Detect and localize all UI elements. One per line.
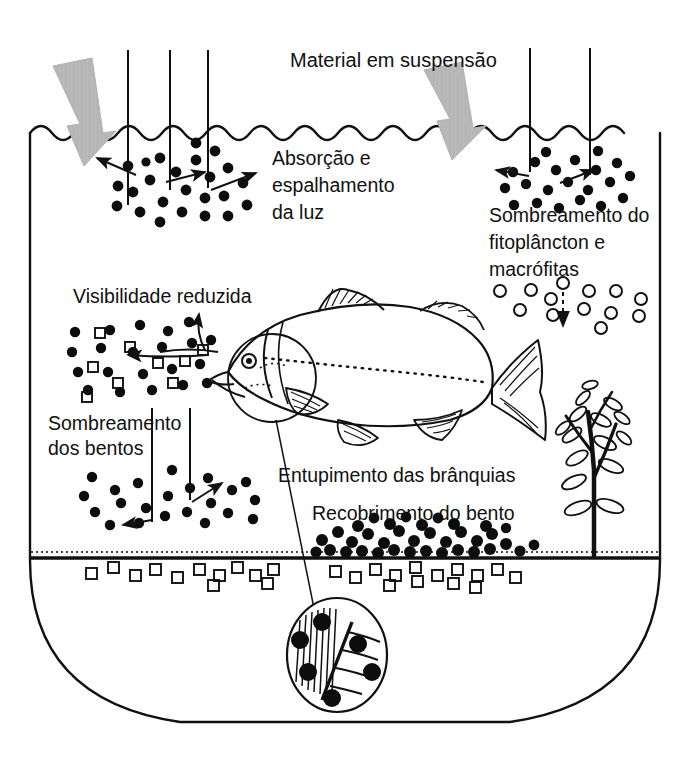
label-shading-phyto-line1: Sombreamento do — [489, 204, 650, 226]
label-gill-clogging: Entupimento das brânquias — [278, 464, 516, 486]
particle-cloud-benthos — [79, 465, 260, 530]
suspended-material-inflow-arrow-right — [424, 62, 486, 160]
label-absorption-scattering: Absorção e espalhamento da luz — [272, 147, 395, 223]
label-shading-benthos-line2: dos bentos — [48, 437, 144, 459]
aquatic-suspended-material-diagram: Material em suspensão Absorção e espalha… — [0, 0, 690, 764]
label-shading-phyto-line2: fitoplâncton e — [489, 231, 605, 253]
label-suspended-material: Material em suspensão — [290, 49, 497, 71]
label-shading-benthos-line1: Sombreamento — [48, 412, 181, 434]
phytoplankton-cells — [494, 277, 647, 334]
gill-callout-circle — [228, 334, 316, 422]
visibility-particle-field — [67, 317, 216, 402]
fish-illustration — [208, 288, 546, 445]
label-reduced-visibility: Visibilidade reduzida — [73, 285, 252, 307]
label-absorption-line2: espalhamento — [272, 174, 395, 196]
macrophyte-plant — [554, 379, 634, 556]
suspended-material-inflow-arrow-left — [53, 58, 116, 166]
label-shading-phytoplankton: Sombreamento do fitoplâncton e macrófita… — [489, 204, 650, 280]
benthic-organisms — [86, 562, 521, 593]
magnified-gill-detail — [287, 598, 387, 712]
diagram-canvas: Material em suspensão Absorção e espalha… — [0, 0, 690, 764]
label-absorption-line3: da luz — [272, 201, 324, 223]
label-absorption-line1: Absorção e — [272, 147, 371, 169]
label-shading-benthos: Sombreamento dos bentos — [48, 412, 181, 459]
water-surface — [30, 126, 624, 140]
